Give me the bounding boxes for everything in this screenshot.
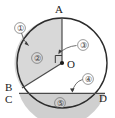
callout-label-3: ③ (80, 41, 87, 50)
geometry-canvas: ① ② ③ ④ ⑤ A O B C D (0, 0, 115, 118)
callout-label-1: ① (17, 24, 24, 33)
point-label-D: D (99, 92, 107, 104)
point-label-A: A (55, 3, 63, 15)
point-label-B: B (5, 81, 12, 93)
callout-label-2: ② (34, 54, 41, 63)
callout-badge-1: ① (15, 23, 26, 34)
callout-label-5: ⑤ (57, 99, 64, 108)
point-label-C: C (5, 93, 12, 105)
center-point-O (60, 61, 64, 65)
callout-badge-3: ③ (78, 40, 89, 51)
callout-badge-4: ④ (83, 74, 94, 85)
callout-label-4: ④ (85, 75, 92, 84)
geometry-figure: ① ② ③ ④ ⑤ A O B C D (0, 0, 115, 118)
leader-arrow-4 (70, 88, 75, 92)
leader-line-4 (73, 80, 83, 92)
point-label-O: O (67, 58, 75, 70)
